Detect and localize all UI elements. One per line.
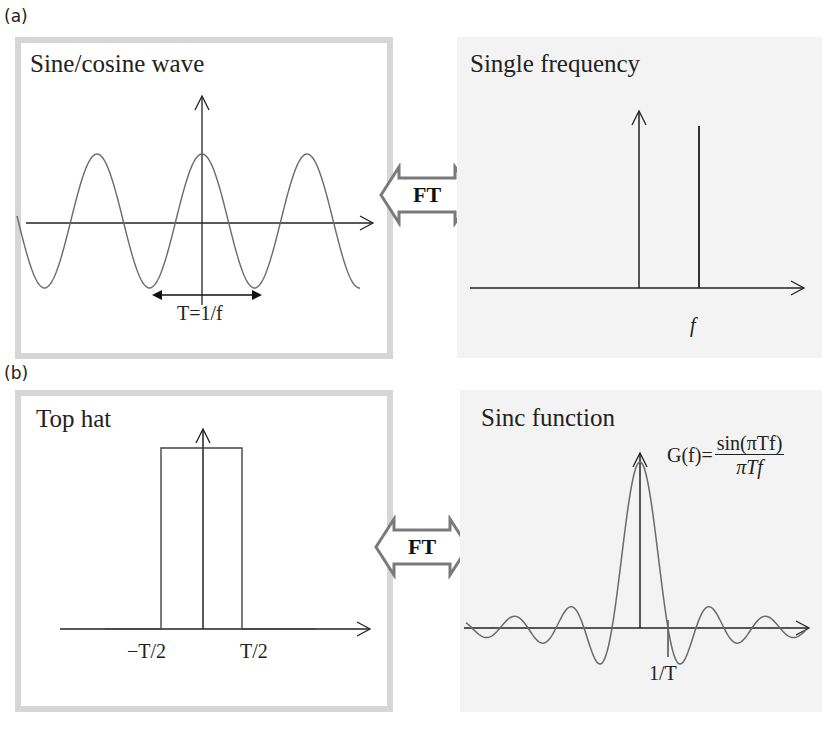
formula-numerator: sin(πTf) [715,432,785,455]
sine-wave-title: Sine/cosine wave [30,50,204,78]
section-b-label: (b) [4,363,28,383]
top-hat-panel [15,390,393,712]
ft-arrow-b: FT [374,515,470,579]
tick-neg-half-t: −T/2 [127,640,166,663]
sinc-function-title: Sinc function [481,404,615,432]
period-label: T=1/f [177,302,223,325]
ft-label-b: FT [374,515,470,579]
formula-denominator: πTf [736,455,763,479]
sinc-formula: G(f)= sin(πTf) πTf [667,432,784,479]
section-a-label: (a) [4,6,28,26]
single-frequency-panel [457,37,822,358]
inverse-t-label: 1/T [649,662,677,685]
frequency-label: f [690,314,696,337]
formula-lhs: G(f)= [667,444,713,467]
tick-half-t: T/2 [240,640,268,663]
top-hat-title: Top hat [36,405,111,433]
formula-fraction: sin(πTf) πTf [715,432,785,479]
single-frequency-title: Single frequency [470,50,640,78]
